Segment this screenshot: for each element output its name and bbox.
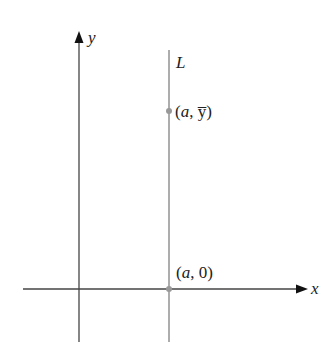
x-axis-label: x: [310, 279, 319, 298]
y-axis-arrow-icon: [75, 31, 84, 43]
point-a-0: [166, 286, 172, 292]
line-L-label: L: [175, 53, 185, 72]
x-axis-arrow-icon: [296, 285, 308, 294]
point-a-ybar-label: (a, y̅): [175, 102, 212, 121]
diagram-canvas: y x L (a, y̅) (a, 0): [0, 0, 333, 349]
point-a-0-label: (a, 0): [176, 263, 213, 282]
point-a-ybar: [166, 108, 172, 114]
y-axis-label: y: [86, 28, 96, 47]
